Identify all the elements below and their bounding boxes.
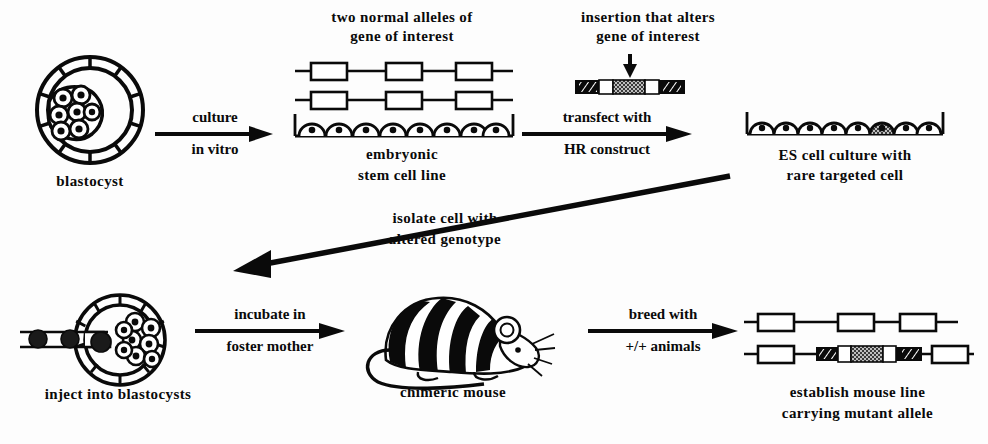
arrow-transfect-label-bottom: HR construct (522, 140, 692, 159)
insertion-label-line2: gene of interest (528, 27, 768, 46)
hr-construct-diagram (565, 52, 695, 97)
insertion-label-line1: insertion that alters (528, 8, 768, 27)
arrow-incubate-label-bottom: foster mother (192, 337, 348, 356)
mouse-ear (494, 317, 520, 343)
normal-alleles-label-line2: gene of interest (282, 27, 522, 46)
cell-culture-dish-targeted-icon (745, 110, 945, 138)
blastocyst-diagram (30, 50, 150, 170)
inject-blastocysts-label: inject into blastocysts (8, 385, 228, 404)
arrow-culture-label-bottom: in vitro (155, 140, 275, 159)
chimeric-mouse-diagram (356, 288, 556, 393)
establish-line-label-line2: carrying mutant allele (735, 404, 980, 423)
arrow-isolate-label-line2: altered genotype (330, 230, 560, 249)
es-culture-targeted-label-line1: ES cell culture with (735, 146, 955, 165)
allele-pair-icon (293, 58, 515, 108)
mouse-icon (356, 288, 556, 393)
insertion-down-arrow-icon (623, 54, 637, 78)
normal-alleles-label-line1: two normal alleles of (282, 8, 522, 27)
blastocyst-injection-icon (18, 292, 188, 392)
es-culture-targeted-label-line2: rare targeted cell (735, 166, 955, 185)
injected-es-cells (29, 330, 111, 352)
blastocyst-label: blastocyst (20, 172, 160, 191)
wildtype-allele (744, 314, 958, 331)
es-culture-targeted-diagram (745, 110, 945, 138)
arrow-transfect-label-top: transfect with (522, 108, 692, 127)
injected-blastocyst-diagram (18, 292, 188, 392)
figure-canvas: blastocyst culture in vitro two normal a… (0, 0, 988, 444)
arrow-incubate-label-top: incubate in (195, 305, 345, 324)
arrow-isolate-label-line1: isolate cell with (330, 209, 560, 228)
arrow-culture-label-top: culture (155, 108, 275, 127)
normal-alleles-diagram (293, 58, 515, 108)
targeted-allele (744, 346, 974, 363)
blastocyst-icon (30, 50, 150, 170)
arrow-breed-label-bottom: +/+ animals (588, 337, 738, 356)
mutant-allele-pair-icon (742, 308, 978, 370)
es-cell-line-label-line1: embryonic (282, 145, 522, 164)
chimeric-mouse-label: chimeric mouse (348, 383, 558, 402)
cell-culture-dish-icon (293, 112, 515, 140)
establish-line-label-line1: establish mouse line (735, 383, 980, 402)
hr-construct-icon (565, 52, 695, 97)
es-cell-line-diagram (293, 112, 515, 140)
mouse-eye (515, 347, 521, 353)
arrow-breed-label-top: breed with (588, 305, 738, 324)
mutant-alleles-diagram (742, 308, 978, 370)
